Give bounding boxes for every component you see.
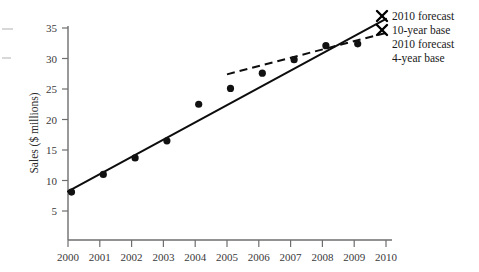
- x-tick-label: 2003: [152, 251, 175, 263]
- data-point: [291, 56, 298, 63]
- sales-forecast-scatter-chart: 5101520253035 20002001200220032004200520…: [0, 0, 479, 272]
- data-point: [322, 42, 329, 49]
- trend-lines-group: [68, 19, 386, 192]
- legend-label-1: 10-year base: [392, 24, 450, 37]
- page-edge-artifact-bottom: [2, 57, 11, 59]
- x-tick-label: 2006: [248, 251, 271, 263]
- x-tick-label: 2000: [57, 251, 80, 263]
- x-tick-label: 2007: [280, 251, 303, 263]
- y-tick-label: 25: [46, 83, 58, 95]
- data-point: [163, 137, 170, 144]
- x-marker-icon-solid: [377, 11, 387, 21]
- x-tick-label: 2001: [89, 251, 111, 263]
- x-tick-label: 2008: [311, 251, 334, 263]
- y-axis-ticks: [62, 28, 68, 211]
- y-axis-label: Sales ($ millions): [28, 92, 41, 173]
- y-tick-label: 35: [46, 22, 58, 34]
- x-tick-label: 2005: [216, 251, 239, 263]
- y-tick-label: 30: [46, 53, 58, 65]
- axis-group: [68, 26, 392, 240]
- chart-figure: 5101520253035 20002001200220032004200520…: [0, 0, 479, 272]
- data-point: [195, 101, 202, 108]
- data-point: [227, 85, 234, 92]
- x-tick-label: 2004: [184, 251, 207, 263]
- x-axis-tick-labels: 2000200120022003200420052006200720082009…: [57, 251, 398, 263]
- trend-line-10-year-base: [68, 19, 386, 192]
- data-point: [132, 154, 139, 161]
- x-tick-label: 2002: [121, 251, 143, 263]
- legend-label-3: 4-year base: [392, 52, 445, 65]
- x-axis-ticks: [68, 240, 386, 247]
- x-tick-label: 2009: [343, 251, 366, 263]
- chart-legend: 2010 forecast 10-year base 2010 forecast…: [392, 10, 455, 65]
- data-point: [68, 188, 75, 195]
- legend-label-2: 2010 forecast: [392, 38, 455, 50]
- page-edge-artifact-top: [2, 28, 13, 30]
- x-tick-label: 2010: [375, 251, 398, 263]
- y-tick-label: 5: [52, 205, 58, 217]
- data-point: [100, 171, 107, 178]
- y-tick-label: 15: [46, 144, 58, 156]
- trend-line-4-year-base: [227, 33, 386, 74]
- y-tick-label: 10: [46, 175, 58, 187]
- legend-label-0: 2010 forecast: [392, 10, 455, 22]
- data-points-group: [68, 40, 361, 195]
- data-point: [259, 70, 266, 77]
- y-tick-label: 20: [46, 114, 58, 126]
- y-axis-tick-labels: 5101520253035: [46, 22, 58, 217]
- data-point: [354, 40, 361, 47]
